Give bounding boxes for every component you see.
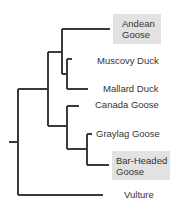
taxon-label-muscovy-duck: Muscovy Duck [97,56,159,67]
taxon-label-andean-goose: Andean Goose [122,19,155,40]
taxon-label-line: Bar-Headed [116,156,167,167]
taxon-label-bar-headed-goose: Bar-Headed Goose [116,156,167,177]
taxon-label-graylag-goose: Graylag Goose [96,129,160,140]
taxon-label-line: Canada Goose [95,100,159,111]
taxon-label-line: Vulture [124,190,154,201]
taxon-label-mallard-duck: Mallard Duck [103,84,158,95]
taxon-label-line: Goose [122,30,155,41]
taxon-label-vulture: Vulture [124,190,154,201]
taxon-label-line: Goose [116,167,167,178]
taxon-label-canada-goose: Canada Goose [95,100,159,111]
taxon-label-line: Mallard Duck [103,84,158,95]
taxon-label-line: Graylag Goose [96,129,160,140]
taxon-label-line: Andean [122,19,155,30]
taxon-label-line: Muscovy Duck [97,56,159,67]
